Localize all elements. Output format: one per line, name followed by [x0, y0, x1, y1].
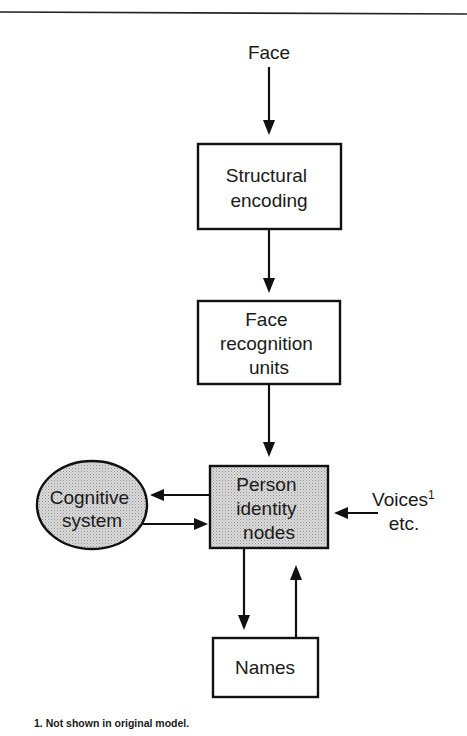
structural-encoding-node: Structural encoding: [198, 144, 341, 229]
names-node: Names: [213, 638, 318, 697]
voices-label: Voices1 etc.: [372, 482, 440, 534]
face-recognition-model-diagram: Face Structural encoding Face recognitio…: [0, 0, 467, 736]
arrow-face-to-structural-encoding: [263, 67, 275, 135]
pin-line-3: nodes: [243, 522, 295, 543]
arrow-names-to-pin: [290, 565, 302, 638]
arrow-structural-encoding-to-fru: [263, 229, 275, 293]
voices-footnote-marker: 1: [428, 488, 435, 502]
pin-line-2: identity: [236, 498, 297, 519]
cognitive-system-line-2: system: [62, 510, 122, 531]
voices-line-1: Voices: [372, 489, 428, 510]
face-recognition-units-node: Face recognition units: [198, 301, 340, 384]
pin-line-1: Person: [236, 474, 296, 495]
face-input-label: Face: [248, 42, 290, 63]
names-label: Names: [235, 657, 295, 678]
structural-encoding-line-2: encoding: [230, 190, 307, 211]
fru-line-2: recognition: [220, 333, 313, 354]
cognitive-system-node: Cognitive system: [37, 461, 147, 549]
top-rule: [0, 12, 467, 14]
person-identity-nodes-node: Person identity nodes: [210, 466, 328, 548]
arrow-pin-to-cognitive-system: [150, 489, 209, 501]
cognitive-system-line-1: Cognitive: [50, 487, 129, 508]
fru-line-3: units: [249, 357, 289, 378]
arrow-cognitive-system-to-pin: [143, 518, 208, 530]
fru-line-1: Face: [245, 309, 287, 330]
svg-text:Person identity no: Person identity nodes: [236, 474, 301, 543]
structural-encoding-line-1: Structural: [226, 165, 307, 186]
voices-line-2: etc.: [389, 513, 420, 534]
footnote: 1. Not shown in original model.: [34, 717, 189, 729]
arrow-pin-to-names: [238, 548, 250, 630]
arrow-fru-to-person-identity-nodes: [263, 384, 275, 457]
